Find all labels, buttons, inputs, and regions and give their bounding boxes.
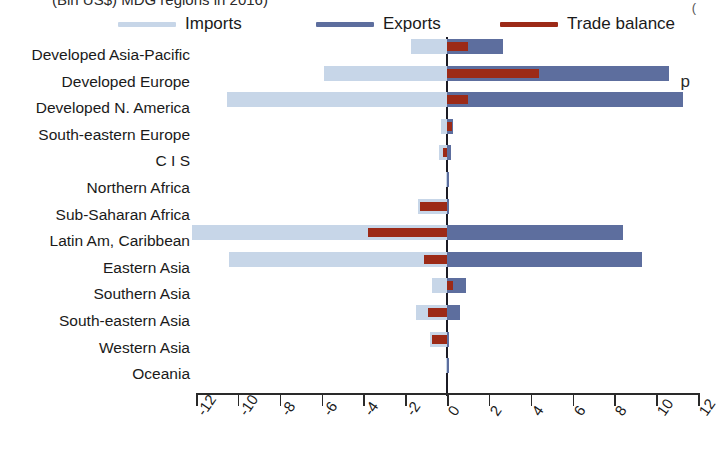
- category-label: Latin Am, Caribbean: [50, 233, 190, 249]
- bar-trade-balance: [368, 228, 447, 237]
- bar-imports: [411, 39, 447, 54]
- legend-swatch-exports: [316, 22, 374, 27]
- bar-trade-balance: [443, 148, 447, 157]
- legend-item-exports: Exports: [316, 11, 441, 37]
- bar-canvas: [196, 37, 698, 389]
- category-label: Oceania: [132, 366, 190, 382]
- bar-imports: [432, 278, 447, 293]
- category-label: Northern Africa: [87, 180, 190, 196]
- chart-title-cropped: (Bln US$) MDG regions in 2016): [0, 0, 698, 11]
- axis-tick-label: 8: [611, 402, 630, 419]
- bar-trade-balance: [447, 122, 452, 131]
- bar-exports: [447, 305, 460, 320]
- axis-tick-label: 2: [486, 402, 505, 419]
- legend-item-imports: Imports: [118, 11, 242, 37]
- bar-imports: [227, 92, 447, 107]
- bar-exports: [447, 199, 449, 214]
- legend-label-imports: Imports: [185, 14, 242, 34]
- bar-row: [196, 172, 698, 187]
- axis-tick-label: 6: [570, 402, 589, 419]
- right-margin-cropped-glyph: p: [681, 72, 690, 92]
- bar-exports: [447, 332, 449, 347]
- category-label: South-eastern Asia: [59, 313, 190, 329]
- bar-row: [196, 39, 698, 54]
- category-label: South-eastern Europe: [38, 127, 190, 143]
- bar-row: [196, 358, 698, 373]
- bar-row: [196, 278, 698, 293]
- category-axis-labels: Developed Asia-PacificDeveloped EuropeDe…: [0, 37, 196, 389]
- category-label: Developed Asia-Pacific: [31, 47, 190, 63]
- legend-item-trade-balance: Trade balance: [500, 11, 675, 37]
- bar-exports: [447, 358, 449, 373]
- bar-row: [196, 92, 698, 107]
- chart-title-text: (Bln US$) MDG regions in 2016): [52, 0, 268, 8]
- bar-imports: [324, 66, 447, 81]
- category-label: Southern Asia: [93, 286, 190, 302]
- bar-row: [196, 199, 698, 214]
- category-label: Developed N. America: [36, 100, 190, 116]
- bar-row: [196, 119, 698, 134]
- bar-row: [196, 332, 698, 347]
- bar-exports: [447, 225, 623, 240]
- bar-exports: [447, 172, 449, 187]
- bar-trade-balance: [432, 335, 447, 344]
- axis-tick-label: 0: [444, 402, 463, 419]
- category-label: C I S: [156, 153, 190, 169]
- bar-trade-balance: [428, 308, 447, 317]
- value-axis: -12-10-8-6-4-2024681012: [196, 393, 698, 457]
- category-label: Western Asia: [99, 340, 190, 356]
- bar-row: [196, 145, 698, 160]
- bar-imports: [229, 252, 447, 267]
- bar-exports: [447, 92, 683, 107]
- bar-exports: [447, 252, 642, 267]
- bar-trade-balance: [447, 42, 468, 51]
- bar-row: [196, 305, 698, 320]
- bar-row: [196, 252, 698, 267]
- bar-exports: [447, 145, 451, 160]
- chart-legend: Imports Exports Trade balance: [0, 11, 698, 37]
- bar-trade-balance: [447, 95, 468, 104]
- bar-row: [196, 225, 698, 240]
- category-label: Sub-Saharan Africa: [56, 207, 190, 223]
- axis-tick-label: 4: [528, 402, 547, 419]
- legend-label-trade-balance: Trade balance: [567, 14, 675, 34]
- bar-trade-balance: [420, 202, 447, 211]
- category-label: Eastern Asia: [103, 260, 190, 276]
- bar-trade-balance: [424, 255, 447, 264]
- bar-trade-balance: [447, 69, 539, 78]
- bar-row: [196, 66, 698, 81]
- legend-swatch-trade-balance: [500, 22, 558, 27]
- legend-label-exports: Exports: [383, 14, 441, 34]
- chart-plot-area: Developed Asia-PacificDeveloped EuropeDe…: [0, 37, 698, 457]
- bar-trade-balance: [447, 281, 453, 290]
- category-label: Developed Europe: [62, 74, 190, 90]
- legend-swatch-imports: [118, 22, 176, 27]
